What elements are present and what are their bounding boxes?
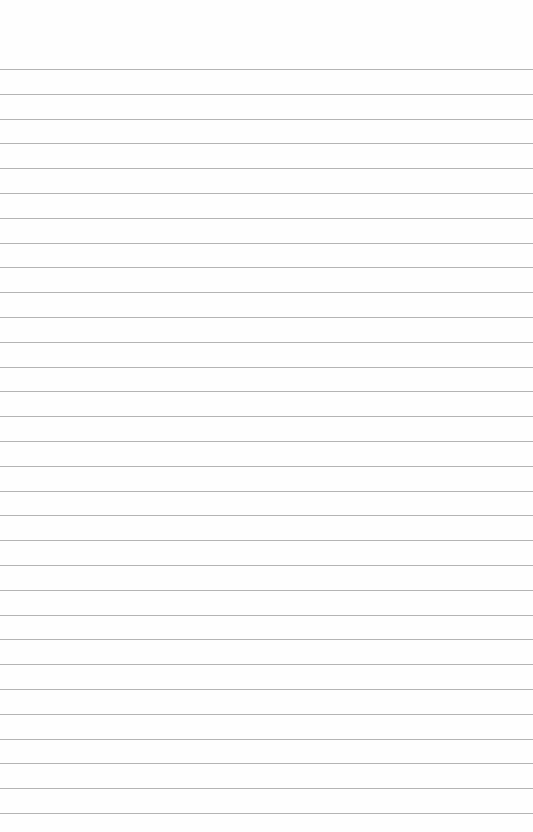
ruled-line (0, 615, 533, 616)
ruled-line (0, 441, 533, 442)
ruled-line (0, 69, 533, 70)
ruled-line (0, 193, 533, 194)
ruled-line (0, 243, 533, 244)
ruled-line (0, 739, 533, 740)
ruled-line (0, 515, 533, 516)
ruled-line (0, 292, 533, 293)
ruled-line (0, 143, 533, 144)
ruled-line (0, 119, 533, 120)
ruled-line (0, 94, 533, 95)
ruled-line (0, 664, 533, 665)
ruled-line (0, 689, 533, 690)
ruled-line (0, 367, 533, 368)
ruled-line (0, 639, 533, 640)
ruled-line (0, 218, 533, 219)
ruled-line (0, 540, 533, 541)
ruled-line (0, 714, 533, 715)
ruled-line (0, 391, 533, 392)
ruled-line (0, 168, 533, 169)
ruled-line (0, 466, 533, 467)
lined-paper-page (0, 0, 533, 832)
ruled-line (0, 267, 533, 268)
ruled-line (0, 590, 533, 591)
ruled-line (0, 565, 533, 566)
ruled-line (0, 491, 533, 492)
ruled-line (0, 788, 533, 789)
ruled-line (0, 317, 533, 318)
ruled-line (0, 342, 533, 343)
ruled-line (0, 416, 533, 417)
ruled-line (0, 763, 533, 764)
ruled-line (0, 813, 533, 814)
